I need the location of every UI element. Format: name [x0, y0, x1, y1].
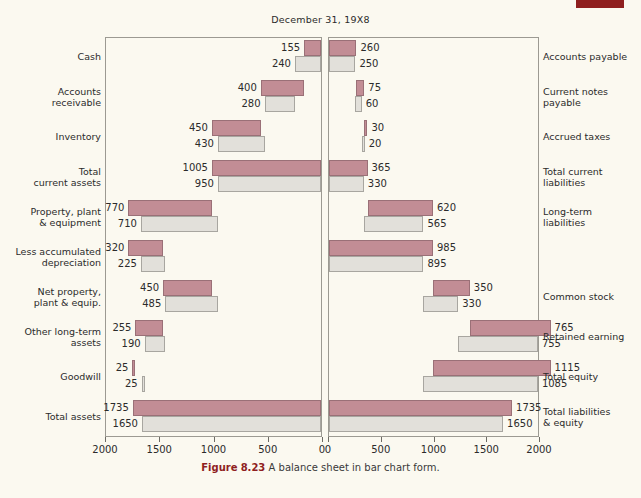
bar-current [364, 120, 367, 136]
bar-value-label: 485 [142, 296, 161, 312]
bar-prior [423, 296, 458, 312]
bar-value-label: 985 [437, 240, 456, 256]
bar-value-label: 25 [116, 360, 129, 376]
bar-row: 17351650 [106, 398, 321, 438]
asset-labels-column: CashAccounts receivableInventoryTotal cu… [0, 37, 101, 437]
bar-current [163, 280, 212, 296]
bar-value-label: 710 [118, 216, 137, 232]
bar-row: 350330 [329, 278, 538, 318]
bar-prior [141, 256, 165, 272]
bar-current [212, 160, 321, 176]
row-label: Total current assets [1, 166, 101, 189]
bar-value-label: 25 [125, 376, 138, 392]
bar-current [128, 240, 163, 256]
figure-number: 8.23 [241, 462, 266, 473]
bar-value-label: 330 [368, 176, 387, 192]
axis-tick [214, 437, 215, 442]
bar-row: 765755 [329, 318, 538, 358]
bar-value-label: 350 [474, 280, 493, 296]
bar-prior [142, 376, 145, 392]
row-label: Goodwill [1, 371, 101, 383]
bar-prior [329, 56, 355, 72]
axis-tick-label: 2000 [92, 444, 117, 455]
figure-caption: Figure 8.23 A balance sheet in bar chart… [0, 462, 641, 473]
bar-value-label: 75 [368, 80, 381, 96]
liability-labels-column: Accounts payableCurrent notes payableAcc… [543, 37, 641, 437]
bar-current [470, 320, 551, 336]
bar-row: 770710 [106, 198, 321, 238]
row-label: Property, plant & equipment [1, 206, 101, 229]
row-label: Long-term liabilities [543, 206, 641, 229]
row-label: Current notes payable [543, 86, 641, 109]
axis-tick [486, 437, 487, 442]
bar-current [128, 200, 212, 216]
axis-tick [381, 437, 382, 442]
bar-prior [364, 216, 424, 232]
bar-value-label: 400 [238, 80, 257, 96]
axis-tick [539, 437, 540, 442]
row-label: Common stock [543, 291, 641, 303]
bar-value-label: 330 [462, 296, 481, 312]
bar-value-label: 950 [195, 176, 214, 192]
bar-prior [423, 376, 537, 392]
bar-current [356, 80, 364, 96]
bar-current [212, 120, 261, 136]
row-label: Inventory [1, 131, 101, 143]
bar-row: 450430 [106, 118, 321, 158]
bar-value-label: 190 [122, 336, 141, 352]
assets-panel: 1552404002804504301005950770710320225450… [105, 37, 322, 437]
assets-axis: 2000150010005000 [105, 437, 322, 463]
figure-root: December 31, 19X8 CashAccounts receivabl… [0, 0, 641, 498]
liabilities-axis: 0500100015002000 [328, 437, 539, 463]
row-label: Retained earning [543, 331, 641, 343]
axis-tick-label: 500 [371, 444, 390, 455]
chart-title: December 31, 19X8 [0, 14, 641, 25]
bar-value-label: 1735 [103, 400, 128, 416]
bar-value-label: 20 [369, 136, 382, 152]
bar-row: 7560 [329, 78, 538, 118]
axis-tick-label: 1500 [147, 444, 172, 455]
bar-current [329, 240, 433, 256]
bar-prior [458, 336, 538, 352]
figure-caption-text: A balance sheet in bar chart form. [269, 462, 440, 473]
bar-current [433, 360, 551, 376]
bar-prior [329, 176, 364, 192]
bar-value-label: 255 [112, 320, 131, 336]
axis-tick [322, 437, 323, 442]
bar-value-label: 450 [140, 280, 159, 296]
bar-current [329, 160, 368, 176]
axis-tick-label: 0 [325, 444, 331, 455]
bar-row: 260250 [329, 38, 538, 78]
row-label: Cash [1, 51, 101, 63]
bar-prior [145, 336, 166, 352]
bar-current [132, 360, 135, 376]
bar-prior [141, 216, 218, 232]
row-label: Total liabilities & equity [543, 406, 641, 429]
bar-row: 3020 [329, 118, 538, 158]
bar-row: 620565 [329, 198, 538, 238]
row-label: Total current liabilities [543, 166, 641, 189]
bar-value-label: 225 [118, 256, 137, 272]
axis-tick-label: 1000 [201, 444, 226, 455]
bar-value-label: 60 [366, 96, 379, 112]
row-label: Accrued taxes [543, 131, 641, 143]
bar-value-label: 155 [281, 40, 300, 56]
bar-current [261, 80, 304, 96]
bar-current [329, 40, 356, 56]
bar-value-label: 565 [427, 216, 446, 232]
axis-tick [105, 437, 106, 442]
bar-row: 11151085 [329, 358, 538, 398]
bar-value-label: 250 [359, 56, 378, 72]
bar-prior [329, 416, 503, 432]
bar-current [329, 400, 512, 416]
row-label: Total assets [1, 411, 101, 423]
bar-prior [218, 176, 321, 192]
bar-value-label: 620 [437, 200, 456, 216]
bar-prior [142, 416, 321, 432]
bar-row: 255190 [106, 318, 321, 358]
axis-tick [268, 437, 269, 442]
bar-prior [165, 296, 218, 312]
bar-value-label: 1005 [183, 160, 208, 176]
bar-value-label: 1735 [516, 400, 541, 416]
bar-value-label: 430 [195, 136, 214, 152]
